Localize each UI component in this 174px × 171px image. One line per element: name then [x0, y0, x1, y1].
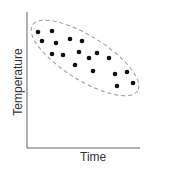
y-axis-label: Temperature: [11, 42, 25, 122]
data-point: [113, 72, 118, 77]
data-point: [115, 84, 120, 89]
data-point: [107, 56, 112, 61]
data-point: [68, 37, 73, 42]
data-point: [95, 51, 100, 56]
data-point: [80, 39, 85, 44]
data-point: [50, 52, 55, 57]
data-point: [87, 56, 92, 61]
data-point: [91, 69, 96, 74]
data-point: [131, 81, 136, 86]
data-point: [54, 41, 59, 46]
data-point: [61, 53, 66, 58]
data-point: [125, 70, 130, 75]
x-axis-label: Time: [80, 150, 106, 164]
data-point: [40, 39, 45, 44]
data-point: [77, 50, 82, 55]
cluster-ellipse: [21, 6, 149, 109]
scatter-plot: [0, 0, 174, 171]
data-point: [50, 29, 55, 34]
data-points: [36, 29, 136, 89]
data-point: [73, 63, 78, 68]
data-point: [36, 30, 41, 35]
